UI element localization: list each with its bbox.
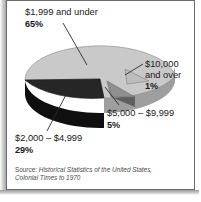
pie-label-1999-under-name: $1,999 and under	[25, 7, 98, 19]
source-note-line1: Historical Statistics of the United Stat…	[39, 166, 152, 173]
source-note-line2: Colonial Times to 1970	[15, 174, 80, 181]
pie-chart-plot: $1,999 and under 65% $10,000 and over 1%…	[7, 1, 193, 188]
figure-frame: $1,999 and under 65% $10,000 and over 1%…	[6, 0, 195, 190]
page-shadow-bottom	[0, 190, 199, 195]
pie-label-10000-over-name-line1: $10,000	[145, 59, 181, 70]
pie-label-2000-4999-name: $2,000 – $4,999	[15, 133, 82, 145]
pie-label-10000-over-value: 1%	[145, 81, 181, 92]
pie-label-1999-under: $1,999 and under 65%	[25, 7, 98, 30]
pie-label-1999-under-value: 65%	[25, 19, 98, 31]
pie-label-5000-9999-value: 5%	[107, 120, 174, 132]
source-note: Source: Historical Statistics of the Uni…	[15, 166, 185, 182]
source-note-lead: Source:	[15, 166, 39, 173]
pie-label-2000-4999-value: 29%	[15, 145, 82, 157]
pie-label-5000-9999: $5,000 – $9,999 5%	[107, 108, 174, 131]
pie-label-10000-over: $10,000 and over 1%	[145, 59, 181, 93]
pie-slice-top-2000-4999	[25, 79, 104, 98]
page-background-bottom	[0, 196, 201, 202]
pie-label-10000-over-name-line2: and over	[145, 70, 181, 81]
pie-label-2000-4999: $2,000 – $4,999 29%	[15, 133, 82, 156]
pie-label-5000-9999-name: $5,000 – $9,999	[107, 108, 174, 120]
